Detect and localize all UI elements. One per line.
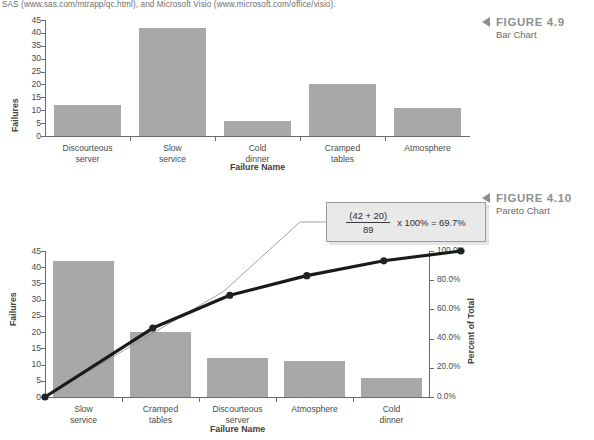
textbook-page: SAS (www.sas.com/mtrapp/qc.html), and Mi…	[0, 0, 594, 440]
data-point-marker	[457, 247, 464, 254]
x-axis-tick-mark	[276, 398, 277, 402]
data-point-marker	[303, 272, 310, 279]
y-axis-line	[45, 20, 46, 136]
pareto-chart-figure-4-10: Failures 051015202530354045 0.0%20.0%40.…	[0, 196, 594, 440]
y-axis-tick-label: 35	[19, 41, 41, 49]
x-axis-tick-mark	[353, 398, 354, 402]
x-axis-category-label: Slowservice	[128, 143, 218, 164]
x-axis-category-label: Crampedtables	[298, 143, 388, 164]
triangle-left-icon	[482, 17, 490, 27]
x-axis-category-label: Discourteousserver	[196, 404, 280, 425]
bar	[309, 84, 375, 136]
x-axis-category-label: Discourteousserver	[43, 143, 133, 164]
x-axis-category-label: Colddinner	[350, 404, 434, 425]
x-axis-title: Failure Name	[45, 424, 430, 434]
y-axis-title: Failures	[10, 98, 20, 132]
x-axis-category-label: Atmosphere	[383, 143, 473, 154]
x-axis-tick-mark	[122, 398, 123, 402]
cumulative-percent-line	[45, 251, 461, 397]
y-axis-tick-label: 30	[19, 54, 41, 62]
bar	[224, 121, 290, 136]
x-axis-tick-mark	[199, 398, 200, 402]
fraction-numerator: (42 + 20)	[346, 210, 390, 223]
y-axis-tick-label: 25	[19, 67, 41, 75]
bar	[139, 28, 205, 136]
bar-chart-figure-4-9: Failures 051015202530354045 Discourteous…	[0, 14, 470, 184]
x-axis-tick-mark	[215, 137, 216, 141]
y-axis-tick-label: 0	[19, 132, 41, 140]
x-axis-category-label: Slowservice	[42, 404, 126, 425]
figure-caption-4-9: FIGURE 4.9 Bar Chart	[482, 16, 594, 40]
y-axis-tick-label: 45	[19, 16, 41, 24]
data-point-marker	[41, 393, 48, 400]
figure-caption-4-9-heading: FIGURE 4.9	[482, 16, 594, 28]
y-axis-tick-label: 15	[19, 93, 41, 101]
x-axis-category-label: Colddinner	[213, 143, 303, 164]
y-axis-tick-label: 5	[19, 119, 41, 127]
data-point-marker	[149, 324, 156, 331]
data-point-marker	[380, 257, 387, 264]
fraction-denominator: 89	[346, 223, 390, 235]
y-axis-tick-label: 20	[19, 80, 41, 88]
bar	[54, 105, 120, 136]
x-axis-tick-mark	[300, 137, 301, 141]
body-text: SAS (www.sas.com/mtrapp/qc.html), and Mi…	[2, 0, 472, 10]
x-axis-line	[45, 136, 470, 137]
x-axis-category-label: Atmosphere	[273, 404, 357, 415]
fraction: (42 + 20) 89	[346, 210, 390, 235]
x-axis-tick-mark	[130, 137, 131, 141]
figure-title: Bar Chart	[496, 29, 594, 40]
x-axis-category-label: Crampedtables	[119, 404, 203, 425]
figure-number: FIGURE 4.9	[496, 16, 565, 28]
x-axis-tick-mark	[385, 137, 386, 141]
y-axis-tick-label: 40	[19, 28, 41, 36]
callout-box: (42 + 20) 89 x 100% = 69.7%	[326, 202, 486, 242]
y-axis-tick-label: 10	[19, 106, 41, 114]
x-axis-title: Failure Name	[45, 162, 470, 172]
bar	[394, 108, 460, 136]
data-point-marker	[226, 292, 233, 299]
callout-expression: x 100% = 69.7%	[397, 217, 466, 228]
